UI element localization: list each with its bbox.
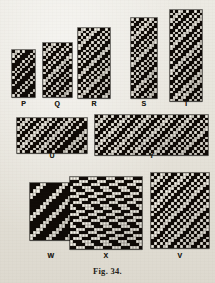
figure-plate: PQRSTUYWXV Fig. 34. xyxy=(0,0,215,283)
design-label-r: R xyxy=(78,100,110,108)
weave-design-u: U xyxy=(17,118,87,153)
figure-caption: Fig. 34. xyxy=(0,266,215,276)
weave-grid xyxy=(78,28,110,98)
weave-design-x: X xyxy=(70,177,142,249)
weave-grid xyxy=(30,183,72,240)
weave-design-w: W xyxy=(30,183,72,240)
weave-grid xyxy=(170,10,202,101)
weave-design-r: R xyxy=(78,28,110,98)
weave-design-v: V xyxy=(151,173,209,248)
design-label-t: T xyxy=(170,100,202,108)
weave-grid xyxy=(12,50,35,97)
weave-grid xyxy=(17,118,87,153)
weave-grid xyxy=(43,43,72,97)
design-label-u: U xyxy=(17,152,87,160)
design-label-y: Y xyxy=(95,152,208,160)
weave-cell xyxy=(154,96,157,99)
weave-cell xyxy=(33,94,36,97)
weave-cell xyxy=(108,95,111,98)
design-label-w: W xyxy=(30,252,72,260)
weave-cell xyxy=(139,246,142,249)
design-label-s: S xyxy=(131,100,157,108)
weave-grid xyxy=(151,173,209,248)
design-label-v: V xyxy=(151,252,209,260)
weave-grid xyxy=(70,177,142,249)
weave-cell xyxy=(69,95,72,98)
weave-design-t: T xyxy=(170,10,202,101)
weave-design-s: S xyxy=(131,18,157,98)
weave-cell xyxy=(206,245,209,248)
weave-design-q: Q xyxy=(43,43,72,97)
weave-grid xyxy=(131,18,157,98)
design-label-p: P xyxy=(12,100,35,108)
design-label-q: Q xyxy=(43,100,72,108)
design-label-x: X xyxy=(70,252,142,260)
weave-grid xyxy=(95,115,208,155)
weave-design-p: P xyxy=(12,50,35,97)
weave-design-y: Y xyxy=(95,115,208,155)
